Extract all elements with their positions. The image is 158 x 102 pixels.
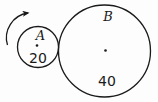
circle-b-label: B [102,9,113,24]
circle-a-center-dot [36,44,39,47]
tangent-circles-diagram: A 20 B 40 [0,0,158,102]
circle-a-radius-value: 20 [29,50,47,66]
circle-b-center-dot [104,49,107,52]
circle-b-radius-value: 40 [98,73,116,89]
circle-a-label: A [35,28,45,43]
diagram-canvas: A 20 B 40 [0,0,158,102]
rotation-arrow-icon [6,13,28,45]
